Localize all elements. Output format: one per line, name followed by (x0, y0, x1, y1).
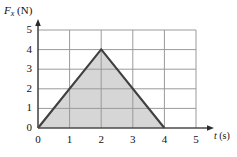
y-tick-label-3: 3 (16, 63, 32, 74)
y-axis-arrow-icon (35, 19, 41, 26)
x-tick-label-5: 5 (188, 134, 204, 145)
x-axis-label-unit: (s) (219, 130, 230, 141)
y-axis (35, 19, 41, 128)
x-axis-arrow-icon (207, 125, 214, 131)
y-tick-label-4: 4 (16, 44, 32, 55)
y-tick-label-0: 0 (16, 122, 32, 133)
x-tick-label-4: 4 (156, 134, 172, 145)
y-tick-label-5: 5 (16, 24, 32, 35)
x-axis-label-symbol: t (214, 130, 217, 141)
x-tick-label-0: 0 (30, 134, 46, 145)
y-axis-label: Fx (N) (4, 5, 32, 18)
x-axis-label: t (s) (214, 131, 230, 141)
y-tick-label-1: 1 (16, 102, 32, 113)
x-tick-label-2: 2 (93, 134, 109, 145)
force-vs-time-graph: Fx (N) t (s) 0 1 2 3 4 5 0 1 2 3 4 5 (0, 0, 237, 157)
y-axis-label-symbol: F (4, 4, 11, 16)
y-tick-label-2: 2 (16, 83, 32, 94)
y-axis-label-unit: (N) (17, 4, 32, 16)
x-tick-label-1: 1 (62, 134, 78, 145)
x-tick-label-3: 3 (125, 134, 141, 145)
y-axis-label-subscript: x (11, 9, 15, 18)
